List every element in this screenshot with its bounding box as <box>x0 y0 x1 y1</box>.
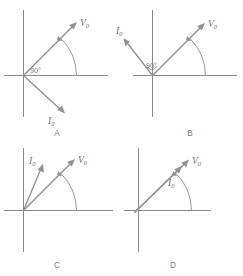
phasor-figure-svg: V0 I0 90° A V0 I0 90° <box>0 0 243 276</box>
panel-c: V0 I0 C <box>4 148 113 270</box>
panel-c-angle-arc <box>57 171 77 211</box>
panel-c-current-label: I0 <box>28 156 36 167</box>
panel-c-current-vector <box>24 164 44 211</box>
phasor-figure: V0 I0 90° A V0 I0 90° <box>0 0 243 276</box>
panel-b-angle-label: 90° <box>146 61 157 70</box>
panel-b-voltage-vector <box>153 23 206 76</box>
panel-a: V0 I0 90° A <box>4 10 108 138</box>
panel-a-voltage-label: V0 <box>80 18 90 29</box>
panel-b-angle-arc <box>186 36 206 76</box>
panel-d-current-vector <box>135 166 183 213</box>
panel-d-current-label: I0 <box>167 178 175 189</box>
panel-b-current-label: I0 <box>115 26 123 37</box>
panel-b-voltage-label: V0 <box>208 19 218 30</box>
panel-a-current-vector <box>24 76 66 114</box>
panel-d-angle-arc <box>172 171 192 211</box>
panel-c-letter: C <box>54 261 60 270</box>
panel-b: V0 I0 90° B <box>115 10 237 138</box>
panel-b-letter: B <box>187 129 193 138</box>
panel-d: V0 I0 D <box>124 148 211 270</box>
panel-a-current-label: I0 <box>47 116 55 127</box>
panel-d-voltage-label: V0 <box>192 156 202 167</box>
panel-a-angle-arc <box>57 36 77 76</box>
panel-a-letter: A <box>54 129 60 138</box>
panel-c-voltage-label: V0 <box>78 155 88 166</box>
panel-d-letter: D <box>170 261 176 270</box>
panel-a-angle-label: 90° <box>30 66 41 75</box>
